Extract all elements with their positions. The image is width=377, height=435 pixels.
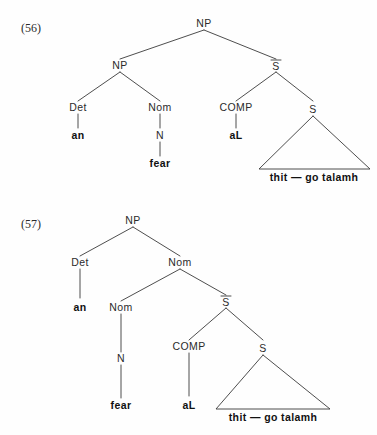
branch-sbar-to-s: [226, 308, 263, 340]
node-det: Det: [69, 101, 87, 113]
node-sbar: S: [222, 296, 229, 308]
node-comp: COMP: [172, 340, 205, 352]
branch-root-to-np: [120, 30, 204, 59]
terminal-al: aL: [229, 129, 242, 141]
branch-np-to-nom: [120, 72, 160, 101]
node-sbar: S: [272, 60, 279, 72]
terminal-an: an: [71, 129, 84, 141]
triangle-clause-56: [259, 116, 370, 169]
node-n: N: [156, 129, 164, 141]
branch-root-to-det: [80, 227, 133, 256]
terminal-clause: thit — go talamh: [229, 411, 318, 423]
branch-sbar-to-comp: [236, 72, 276, 101]
terminal-al: aL: [182, 399, 195, 411]
branch-sbar-to-s: [276, 72, 313, 101]
node-n: N: [117, 352, 125, 364]
syntax-tree-56: NP NP S Det Nom COMP S N an fear aL thit…: [0, 0, 377, 200]
node-comp: COMP: [219, 101, 252, 113]
branch-root-to-nom: [133, 227, 180, 256]
node-nom: Nom: [148, 101, 171, 113]
terminal-fear: fear: [111, 399, 132, 411]
branch-root-to-sbar: [204, 30, 276, 59]
triangle-clause-57: [216, 355, 330, 409]
page-canvas: (56) NP NP S Det Nom COMP S N an fear aL: [0, 0, 377, 435]
terminal-an: an: [73, 301, 86, 313]
terminal-fear: fear: [150, 157, 171, 169]
branch-nom-to-sbar: [180, 269, 226, 295]
node-s: S: [309, 103, 316, 115]
branch-nom-to-nom: [121, 269, 180, 301]
node-left-np: NP: [112, 59, 127, 71]
syntax-tree-57: NP Det Nom Nom S N COMP S an fear aL thi…: [0, 200, 377, 435]
node-s: S: [259, 342, 266, 354]
branch-sbar-to-comp: [189, 308, 226, 340]
branch-np-to-det: [78, 72, 120, 101]
terminal-clause: thit — go talamh: [270, 171, 359, 183]
node-nom-upper: Nom: [168, 256, 191, 268]
node-root-np: NP: [196, 17, 211, 29]
node-det: Det: [71, 256, 89, 268]
node-root-np: NP: [125, 214, 140, 226]
node-nom-lower: Nom: [109, 301, 132, 313]
